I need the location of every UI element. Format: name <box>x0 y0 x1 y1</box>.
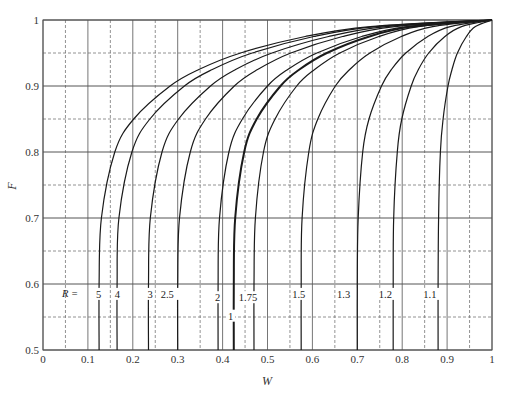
x-tick-label: 0.2 <box>126 353 140 365</box>
x-tick-label: 0.8 <box>395 353 409 365</box>
y-tick-label: 0.9 <box>25 80 39 92</box>
curve-label-r-4: 4 <box>115 289 121 300</box>
legend-prefix: R = <box>61 288 78 299</box>
chart-canvas: 5432.5211.751.51.31.21.1 00.10.20.30.40.… <box>0 0 512 393</box>
y-tick-label: 0.5 <box>25 344 39 356</box>
curve-label-r-1-5: 1.5 <box>292 289 305 300</box>
curve-r-1-2 <box>393 20 492 350</box>
x-tick-label: 0.1 <box>81 353 95 365</box>
x-tick-label: 0 <box>40 353 46 365</box>
x-tick-label: 0.7 <box>350 353 364 365</box>
y-axis-ticks: 0.50.60.70.80.91 <box>25 14 39 356</box>
y-axis-label: F <box>5 182 19 191</box>
x-axis-label: W <box>262 374 273 388</box>
x-tick-label: 1 <box>489 353 495 365</box>
curve-label-r-5: 5 <box>96 289 101 300</box>
x-tick-label: 0.6 <box>306 353 320 365</box>
x-tick-label: 0.3 <box>171 353 185 365</box>
x-tick-label: 0.9 <box>440 353 454 365</box>
x-tick-label: 0.4 <box>216 353 230 365</box>
x-axis-ticks: 00.10.20.30.40.50.60.70.80.91 <box>40 353 495 365</box>
x-tick-label: 0.5 <box>261 353 275 365</box>
curve-label-r-1-2: 1.2 <box>379 289 392 300</box>
y-tick-label: 0.7 <box>25 212 39 224</box>
curve-label-r-1-1: 1.1 <box>423 289 436 300</box>
curve-label-r-1-75: 1.75 <box>239 292 257 303</box>
curve-label-r-3: 3 <box>148 289 153 300</box>
curve-label-r-1: 1 <box>228 311 233 322</box>
curve-label-r-1-3: 1.3 <box>337 289 350 300</box>
y-tick-label: 0.8 <box>25 146 39 158</box>
y-tick-label: 1 <box>34 14 40 26</box>
curve-label-r-2-5: 2.5 <box>161 289 174 300</box>
y-tick-label: 0.6 <box>25 278 39 290</box>
curve-label-r-2: 2 <box>215 292 220 303</box>
